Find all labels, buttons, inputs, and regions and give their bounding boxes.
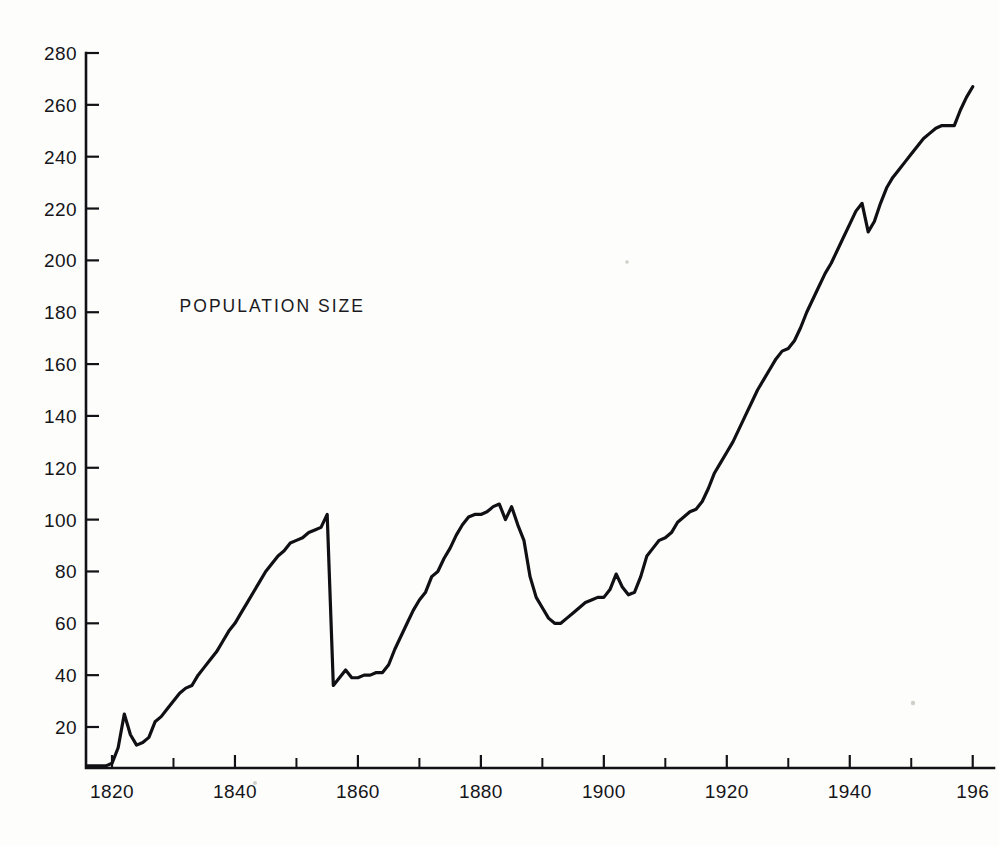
y-tick-label-260: 260: [44, 95, 77, 116]
x-axis-ticks: [112, 755, 973, 768]
x-tick-label-1960: 196: [956, 781, 989, 802]
y-tick-label-120: 120: [44, 458, 77, 479]
x-tick-label-1940: 1940: [828, 781, 872, 802]
y-axis-tick-labels: 20406080100120140160180200220240260280: [44, 43, 77, 738]
y-tick-label-220: 220: [44, 199, 77, 220]
chart-canvas: 20406080100120140160180200220240260280 1…: [0, 0, 999, 846]
y-tick-label-20: 20: [55, 717, 77, 738]
y-tick-label-180: 180: [44, 302, 77, 323]
x-axis-tick-labels: 1820184018601880190019201940196: [90, 781, 989, 802]
population-size-line-chart: 20406080100120140160180200220240260280 1…: [0, 0, 999, 846]
x-tick-label-1820: 1820: [90, 781, 134, 802]
y-tick-label-200: 200: [44, 250, 77, 271]
y-tick-label-80: 80: [55, 561, 77, 582]
x-tick-label-1860: 1860: [336, 781, 380, 802]
y-tick-label-60: 60: [55, 613, 77, 634]
population-size-label: POPULATION SIZE: [180, 296, 365, 316]
x-tick-label-1900: 1900: [582, 781, 626, 802]
y-tick-label-240: 240: [44, 147, 77, 168]
y-tick-label-140: 140: [44, 406, 77, 427]
chart-axes: [86, 53, 994, 768]
x-tick-label-1880: 1880: [459, 781, 503, 802]
y-tick-label-100: 100: [44, 510, 77, 531]
y-tick-label-280: 280: [44, 43, 77, 64]
scan-artifacts: [253, 260, 915, 785]
population-size-line: [87, 87, 972, 766]
data-series-group: [87, 87, 972, 766]
y-tick-label-160: 160: [44, 354, 77, 375]
y-axis-ticks: [86, 53, 99, 727]
chart-annotations: POPULATION SIZE: [180, 296, 365, 316]
x-tick-label-1840: 1840: [213, 781, 257, 802]
y-tick-label-40: 40: [55, 665, 77, 686]
x-tick-label-1920: 1920: [705, 781, 749, 802]
chart-page: 20406080100120140160180200220240260280 1…: [0, 0, 999, 846]
